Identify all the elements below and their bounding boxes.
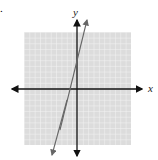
chart [0, 0, 158, 160]
y-axis-label: y [73, 6, 78, 18]
x-axis-label: x [148, 82, 153, 94]
